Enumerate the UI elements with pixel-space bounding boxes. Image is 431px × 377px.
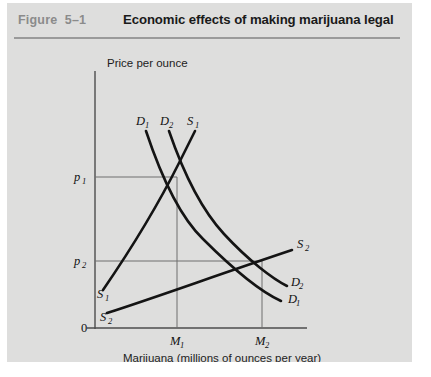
svg-text:2: 2 xyxy=(265,340,270,350)
svg-text:2: 2 xyxy=(305,243,310,253)
svg-text:S: S xyxy=(297,237,304,251)
x-axis-caption: Marijuana (millions of ounces per year) xyxy=(123,352,321,362)
y-tick-p2: p 2 xyxy=(73,254,87,270)
svg-text:S: S xyxy=(97,287,104,301)
curve-label-s1-start: S 1 xyxy=(97,287,109,303)
svg-text:1: 1 xyxy=(180,340,184,350)
x-tick-m2: M 2 xyxy=(254,334,270,350)
svg-text:1: 1 xyxy=(296,298,300,308)
curve-label-s2-end: S 2 xyxy=(297,237,310,253)
x-tick-m1: M 1 xyxy=(169,334,184,350)
figure-header: Figure 5–1 Economic effects of making ma… xyxy=(7,3,412,39)
svg-text:S: S xyxy=(187,114,194,128)
curve-label-d2-end: D 2 xyxy=(290,275,304,291)
y-axis-caption: Price per ounce xyxy=(107,57,188,69)
chart-plot-area: Price per ounce D 1 D 2 xyxy=(7,39,412,362)
svg-text:p: p xyxy=(73,254,80,268)
svg-text:1: 1 xyxy=(195,120,199,130)
curve-label-d1-top: D 1 xyxy=(135,114,149,130)
svg-text:2: 2 xyxy=(299,281,304,291)
figure-number-label: Figure 5–1 xyxy=(18,13,86,27)
svg-text:2: 2 xyxy=(108,316,113,326)
svg-text:p: p xyxy=(73,170,80,184)
figure-title: Economic effects of making marijuana leg… xyxy=(123,12,394,27)
svg-text:2: 2 xyxy=(82,260,87,270)
svg-text:1: 1 xyxy=(82,176,86,186)
figure-panel: Figure 5–1 Economic effects of making ma… xyxy=(7,3,412,362)
supply-demand-chart: Price per ounce D 1 D 2 xyxy=(7,39,412,362)
svg-text:1: 1 xyxy=(145,120,149,130)
y-tick-origin: 0 xyxy=(81,321,87,335)
svg-text:D: D xyxy=(159,114,169,128)
curve-label-d1-end: D 1 xyxy=(287,292,300,308)
svg-text:S: S xyxy=(100,310,107,324)
svg-text:1: 1 xyxy=(105,293,109,303)
svg-text:D: D xyxy=(135,114,145,128)
y-tick-p1: p 1 xyxy=(73,170,86,186)
curve-s2 xyxy=(107,250,292,313)
curve-label-s1-top: S 1 xyxy=(187,114,199,130)
curve-label-d2-top: D 2 xyxy=(159,114,174,130)
svg-text:2: 2 xyxy=(169,120,174,130)
